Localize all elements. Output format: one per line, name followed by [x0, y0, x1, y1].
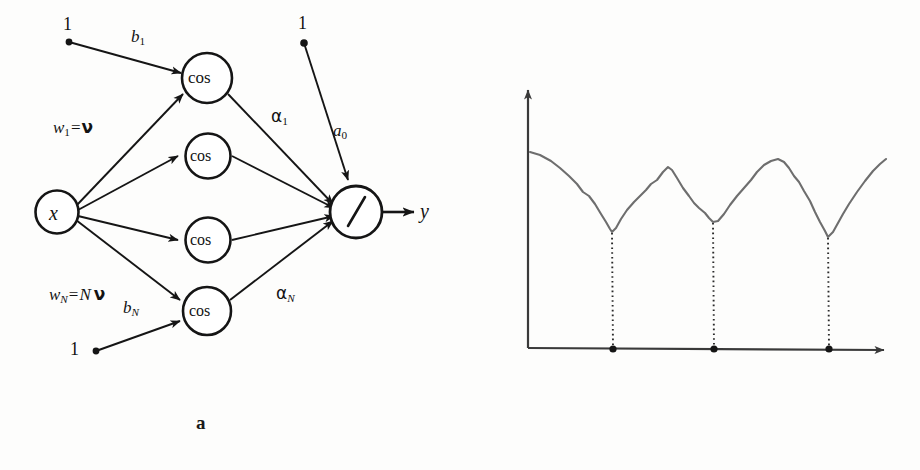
hidden-node-label-3: cos	[190, 232, 211, 248]
edge-label-alphaN: αN	[276, 285, 295, 302]
edge-label-bN: bN	[123, 299, 139, 316]
axis-dot-nu3	[825, 345, 832, 352]
edge-x-to-cos1	[76, 94, 183, 206]
drop-line-nu2	[713, 223, 714, 348]
edge-x-to-cos2	[78, 156, 178, 210]
edge-label-a0: a0	[333, 122, 347, 139]
edge-label-w1-sub: 1	[64, 126, 70, 138]
edge-label-alpha1-base: α	[271, 106, 282, 126]
drop-line-nu3	[828, 238, 829, 348]
edge-label-w1: w1=ν	[53, 119, 93, 136]
edge-label-alpha1: α1	[271, 108, 288, 125]
edge-bias0-to-output	[304, 43, 348, 180]
panel-b-cost-chart: Cost ν ν1 ν2 ν3 b	[460, 0, 920, 470]
edge-bias1-to-cos1	[69, 42, 181, 73]
edge-x-to-cos3	[78, 216, 178, 240]
figure-root: x cos cos cos cos y 1 1 1 b1 bN a0 w1=ν …	[0, 0, 920, 470]
panel-a-network-diagram: x cos cos cos cos y 1 1 1 b1 bN a0 w1=ν …	[0, 0, 460, 470]
edge-label-bN-sub: N	[132, 306, 139, 318]
edge-label-wN-sub: N	[60, 293, 67, 305]
hidden-node-label-4: cos	[189, 303, 210, 319]
edge-label-wN: wN=Nν	[49, 286, 105, 303]
bias-source-dot-N	[93, 348, 100, 355]
drop-line-nu1	[612, 233, 613, 348]
bias-source-dot-0	[300, 39, 308, 47]
axis-dot-nu1	[609, 345, 616, 352]
network-diagram-svg	[0, 0, 460, 470]
edge-label-b1-sub: 1	[140, 35, 146, 47]
edge-label-wN-eq: =	[69, 285, 79, 304]
edge-label-a0-sub: 0	[342, 129, 348, 141]
edge-label-alphaN-sub: N	[287, 292, 294, 304]
edge-label-bN-base: b	[123, 298, 132, 317]
edge-biasN-to-cos4	[96, 321, 180, 351]
bias-source-label-N: 1	[70, 340, 79, 358]
edge-label-wN-nu: ν	[94, 284, 106, 304]
bias-source-dot-1	[66, 39, 73, 46]
edge-cos3-to-output	[232, 216, 334, 240]
edge-label-w1-eq: =	[71, 118, 81, 137]
bias-source-label-0: 1	[298, 14, 307, 32]
edge-label-b1-base: b	[131, 27, 140, 46]
axis-dot-nu2	[710, 345, 717, 352]
input-node-label: x	[49, 203, 58, 223]
edge-label-wN-base: w	[49, 285, 60, 304]
bias-source-label-1: 1	[63, 15, 72, 33]
edge-label-alphaN-base: α	[276, 283, 287, 303]
minimum-drop-lines	[609, 223, 832, 353]
edge-label-w1-nu: ν	[82, 117, 94, 137]
output-label-y: y	[420, 201, 429, 221]
edge-label-w1-base: w	[53, 118, 64, 137]
edge-label-wN-coef: N	[79, 285, 90, 304]
edge-label-a0-base: a	[333, 121, 342, 140]
edge-label-b1: b1	[131, 28, 145, 45]
cost-curve	[530, 152, 886, 237]
hidden-node-label-1: cos	[188, 69, 211, 86]
edge-cos2-to-output	[232, 156, 334, 208]
panel-caption-a: a	[196, 412, 206, 434]
edge-label-alpha1-sub: 1	[282, 115, 288, 127]
cost-chart-svg	[460, 0, 920, 470]
hidden-node-label-2: cos	[190, 148, 211, 164]
